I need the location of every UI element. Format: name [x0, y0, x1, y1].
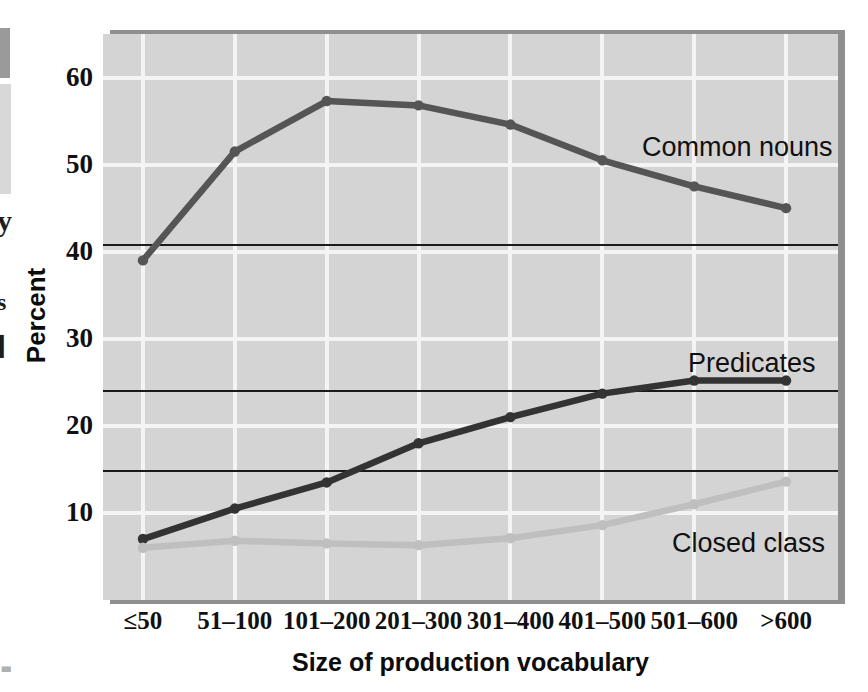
data-point [689, 181, 699, 191]
data-point [597, 520, 607, 530]
series-common-nouns [138, 96, 792, 266]
data-point [138, 255, 148, 265]
data-point [781, 476, 791, 486]
series-line [143, 381, 786, 539]
data-point [321, 477, 331, 487]
series-layer [103, 34, 838, 600]
x-axis-tick-label: >600 [726, 608, 846, 633]
data-point [230, 536, 240, 546]
data-point [505, 533, 515, 543]
data-point [138, 543, 148, 553]
y-axis-tick-label: 10 [23, 499, 93, 526]
data-point [230, 146, 240, 156]
series-label-closed-class: Closed class [672, 528, 825, 559]
data-point [413, 540, 423, 550]
series-label-common-nouns: Common nouns [642, 132, 833, 163]
data-point [689, 499, 699, 509]
series-label-predicates: Predicates [688, 348, 816, 379]
data-point [597, 388, 607, 398]
data-point [505, 119, 515, 129]
line-chart-figure: 605040302010 Percent ≤5051–100101–200201… [0, 0, 868, 692]
x-axis-title: Size of production vocabulary [103, 648, 838, 677]
data-point [413, 100, 423, 110]
y-axis-tick-label: 50 [23, 151, 93, 178]
data-point [230, 503, 240, 513]
data-point [505, 412, 515, 422]
y-axis-tick-label: 20 [23, 412, 93, 439]
series-line [143, 101, 786, 260]
data-point [413, 438, 423, 448]
data-point [321, 538, 331, 548]
data-point [597, 155, 607, 165]
x-axis-tick-labels: ≤5051–100101–200201–300301–400401–500501… [103, 608, 838, 642]
data-point [781, 203, 791, 213]
series-predicates [138, 375, 792, 544]
y-axis-tick-label: 60 [23, 64, 93, 91]
y-axis-title: Percent [21, 236, 52, 396]
data-point [321, 96, 331, 106]
